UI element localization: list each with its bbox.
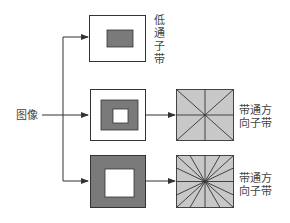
lowpass-label: 低通子带 [154,14,166,66]
directional-filter-4 [177,90,234,141]
bandpass-label-1-line2: 向子带 [239,117,272,130]
input-label: 图像 [16,109,38,122]
directional-filter-8 [177,156,234,208]
bandpass-label-1-line1: 带通方 [239,104,272,117]
lowpass-filter-box [90,16,146,62]
bandpass-filter-box-2 [91,156,146,208]
bandpass-label-2-line1: 带通方 [239,172,272,185]
bandpass-label-2: 带通方 向子带 [239,172,272,198]
bandpass-filter-box-1 [91,90,146,141]
bandpass-label-2-line2: 向子带 [239,185,272,198]
bandpass-label-1: 带通方 向子带 [239,104,272,130]
